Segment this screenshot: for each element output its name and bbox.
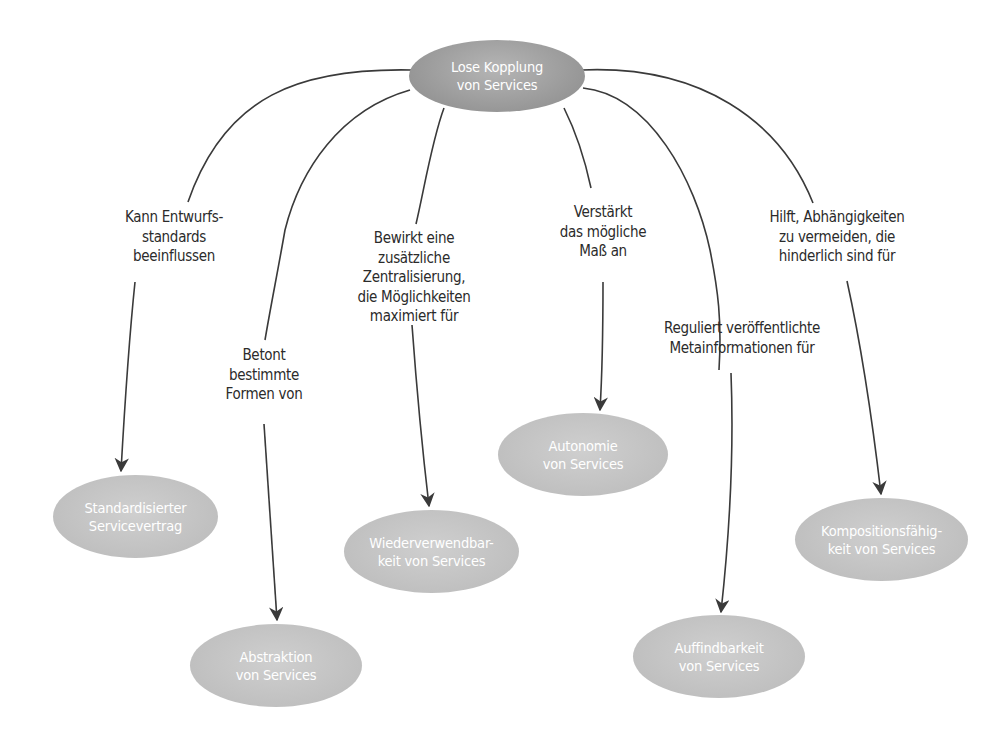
- edge-label-line: Verstärkt: [560, 203, 646, 223]
- edge-label-line: die Möglichkeiten: [357, 288, 470, 308]
- edge-label-wiederverwendbarkeit: Bewirkt eine zusätzliche Zentralisierung…: [357, 229, 470, 327]
- edge-label-line: Formen von: [226, 385, 303, 405]
- edge-arrow-kompositionsfaehigkeit: [847, 281, 881, 494]
- edge-arrow-autonomie: [600, 282, 603, 410]
- concept-diagram: Lose Kopplung von Services Standardisier…: [0, 0, 998, 741]
- node-label-line2: Servicevertrag: [89, 517, 182, 535]
- edge-arrow-standardisierter-servicevertrag: [121, 282, 135, 471]
- edge-label-line: hinderlich sind für: [769, 247, 904, 267]
- node-label-line2: von Services: [457, 76, 538, 94]
- node-label-line2: von Services: [236, 666, 317, 684]
- node-label-line1: Lose Kopplung: [451, 58, 543, 76]
- edge-label-line: Metainformationen für: [664, 339, 820, 359]
- node-label-line2: von Services: [679, 657, 760, 675]
- edge-line-wiederverwendbarkeit: [416, 108, 444, 224]
- edge-arrow-auffindbarkeit: [721, 373, 732, 612]
- node-label-line1: Autonomie: [548, 437, 617, 455]
- edge-label-line: maximiert für: [357, 307, 470, 327]
- node-wiederverwendbarkeit: Wiederverwendbar- keit von Services: [344, 510, 519, 593]
- edge-label-abstraktion: Betont bestimmte Formen von: [226, 346, 303, 405]
- edge-line-autonomie: [564, 108, 591, 188]
- node-abstraktion: Abstraktion von Services: [190, 624, 362, 707]
- node-label-line1: Kompositionsfähig-: [821, 522, 942, 540]
- node-label-line2: keit von Services: [378, 552, 486, 570]
- edge-label-line: zusätzliche: [357, 249, 470, 269]
- edge-label-line: Maß an: [560, 242, 646, 262]
- edge-arrow-wiederverwendbarkeit: [412, 325, 429, 506]
- edge-label-line: Reguliert veröffentlichte: [664, 319, 820, 339]
- node-label-line1: Wiederverwendbar-: [369, 534, 493, 552]
- node-auffindbarkeit: Auffindbarkeit von Services: [633, 615, 805, 698]
- edge-label-line: standards: [125, 228, 223, 248]
- edge-label-line: Bewirkt eine: [357, 229, 470, 249]
- node-label-line1: Auffindbarkeit: [674, 639, 763, 657]
- edge-label-line: beeinflussen: [125, 247, 223, 267]
- edge-label-autonomie: Verstärkt das mögliche Maß an: [560, 203, 646, 262]
- edge-label-line: zu vermeiden, die: [769, 228, 904, 248]
- edge-line-standardisierter-servicevertrag: [188, 70, 411, 202]
- edge-label-standardisierter-servicevertrag: Kann Entwurfs- standards beeinflussen: [125, 208, 223, 267]
- edge-label-line: Kann Entwurfs-: [125, 208, 223, 228]
- node-autonomie: Autonomie von Services: [498, 413, 668, 496]
- node-kompositionsfaehigkeit: Kompositionsfähig- keit von Services: [795, 498, 968, 581]
- edge-line-kompositionsfaehigkeit: [582, 70, 813, 203]
- edge-label-line: das mögliche: [560, 223, 646, 243]
- node-label-line1: Standardisierter: [84, 499, 186, 517]
- edge-label-line: Hilft, Abhängigkeiten: [769, 208, 904, 228]
- edge-label-line: bestimmte: [226, 366, 303, 386]
- node-label-line2: von Services: [543, 455, 624, 473]
- node-label-line2: keit von Services: [828, 540, 936, 558]
- node-label-line1: Abstraktion: [240, 648, 313, 666]
- edge-label-line: Betont: [226, 346, 303, 366]
- edge-label-kompositionsfaehigkeit: Hilft, Abhängigkeiten zu vermeiden, die …: [769, 208, 904, 267]
- edge-label-line: Zentralisierung,: [357, 268, 470, 288]
- edge-arrow-abstraktion: [264, 424, 277, 620]
- node-lose-kopplung: Lose Kopplung von Services: [409, 40, 585, 112]
- edge-label-auffindbarkeit: Reguliert veröffentlichte Metainformatio…: [664, 319, 820, 358]
- node-standardisierter-servicevertrag: Standardisierter Servicevertrag: [53, 475, 218, 558]
